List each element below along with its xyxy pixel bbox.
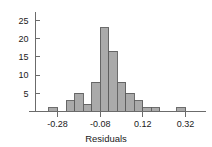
y-axis-tick-label: 20: [18, 34, 28, 44]
y-axis-tick-label: 25: [18, 16, 28, 26]
histogram-bar: [75, 93, 84, 111]
x-axis-title: Residuals: [85, 133, 127, 144]
histogram-bar: [92, 82, 101, 111]
histogram-bars: [49, 28, 186, 112]
x-axis-tick-label: 0.32: [177, 119, 195, 129]
y-axis-ticks: [36, 21, 41, 94]
y-axis-tick-labels: 510152025: [18, 16, 28, 99]
x-axis-tick-labels: -0.28-0.080.120.32: [47, 119, 194, 129]
histogram-bar: [126, 93, 135, 111]
histogram-bar: [83, 104, 92, 111]
histogram-bar: [109, 51, 118, 111]
y-axis-tick-label: 10: [18, 70, 28, 80]
x-axis-tick-label: -0.08: [90, 119, 111, 129]
y-axis-tick-label: 5: [23, 89, 28, 99]
x-axis-tick-label: -0.28: [47, 119, 68, 129]
x-axis-tick-label: 0.12: [134, 119, 152, 129]
residuals-histogram-chart: 510152025 -0.28-0.080.120.32 Residuals: [0, 0, 212, 147]
histogram-bar: [134, 101, 143, 112]
histogram-bar: [117, 82, 126, 111]
x-axis-ticks: [58, 112, 186, 117]
histogram-bar: [66, 101, 75, 112]
histogram-bar: [100, 28, 109, 112]
histogram-figure: 510152025 -0.28-0.080.120.32 Residuals: [0, 0, 212, 147]
y-axis-tick-label: 15: [18, 52, 28, 62]
